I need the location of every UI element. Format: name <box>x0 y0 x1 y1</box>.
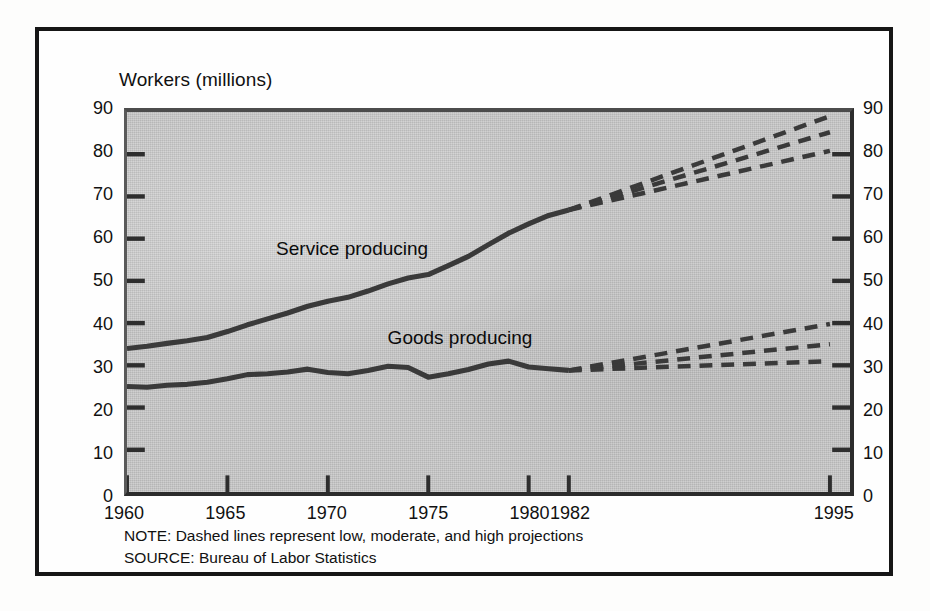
y-tick-label-right-20: 20 <box>863 401 893 419</box>
y-tick-label-left-10: 10 <box>83 444 113 462</box>
series-line-7 <box>569 361 830 370</box>
series-lines <box>127 112 850 492</box>
y-tick-label-right-80: 80 <box>863 142 893 160</box>
x-tick-label-1975: 1975 <box>408 504 448 522</box>
y-tick-label-right-10: 10 <box>863 444 893 462</box>
figure-frame: Workers (millions) 0102030405060708090 0… <box>35 27 893 576</box>
y-tick-label-right-70: 70 <box>863 185 893 203</box>
series-annotation-1: Goods producing <box>388 327 533 349</box>
x-tick-label-1980: 1980 <box>510 504 550 522</box>
x-tick-label-1965: 1965 <box>205 504 245 522</box>
x-tick-label-1995: 1995 <box>814 504 854 522</box>
plot-area <box>124 108 854 496</box>
chart-title: Workers (millions) <box>119 69 272 91</box>
series-annotation-0: Service producing <box>276 238 428 260</box>
footnotes: NOTE: Dashed lines represent low, modera… <box>124 525 583 570</box>
y-tick-label-left-40: 40 <box>83 315 113 333</box>
y-tick-label-left-50: 50 <box>83 271 113 289</box>
y-tick-label-left-60: 60 <box>83 228 113 246</box>
y-tick-label-right-90: 90 <box>863 99 893 117</box>
y-tick-label-right-50: 50 <box>863 271 893 289</box>
source-line: SOURCE: Bureau of Labor Statistics <box>124 547 583 569</box>
y-tick-label-left-80: 80 <box>83 142 113 160</box>
y-tick-label-right-60: 60 <box>863 228 893 246</box>
y-tick-label-right-0: 0 <box>863 487 893 505</box>
x-tick-label-1960: 1960 <box>104 504 144 522</box>
x-tick-label-1970: 1970 <box>307 504 347 522</box>
note-line: NOTE: Dashed lines represent low, modera… <box>124 525 583 547</box>
y-tick-label-left-30: 30 <box>83 358 113 376</box>
y-tick-label-left-20: 20 <box>83 401 113 419</box>
series-line-3 <box>569 132 830 210</box>
y-tick-label-right-30: 30 <box>863 358 893 376</box>
series-line-2 <box>569 116 830 210</box>
y-tick-label-left-70: 70 <box>83 185 113 203</box>
x-tick-label-1982: 1982 <box>550 504 590 522</box>
y-tick-label-right-40: 40 <box>863 315 893 333</box>
y-tick-label-left-90: 90 <box>83 99 113 117</box>
series-line-4 <box>569 151 830 210</box>
plot-canvas <box>124 108 854 496</box>
series-line-1 <box>127 361 569 387</box>
